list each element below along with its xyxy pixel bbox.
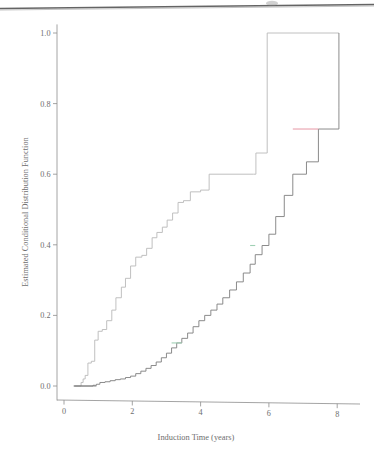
y-axis-tick-label: 0.2 [40,311,50,320]
scan-edge-artifact [0,1,374,10]
series-upper-curve [74,33,339,386]
x-axis-tick-label: 4 [199,408,203,417]
x-axis-tick-label: 6 [267,409,271,418]
chart-canvas: 0.00.20.40.60.81.002468Induction Time (y… [0,0,374,456]
chart-labels-layer: 0.00.20.40.60.81.002468Induction Time (y… [21,29,339,442]
x-axis-line [57,400,360,404]
x-axis-tick-label: 2 [130,407,134,416]
chart-series-layer [74,33,339,386]
y-axis-tick-label: 0.6 [40,170,50,179]
x-axis-title: Induction Time (years) [158,433,235,442]
chart-highlight-layer [172,129,319,343]
x-axis-tick-label: 0 [62,407,66,416]
y-axis-tick-label: 0.8 [40,100,50,109]
y-axis-tick-label: 0.4 [40,241,50,250]
chart-figure: 0.00.20.40.60.81.002468Induction Time (y… [0,0,374,456]
series-lower-curve [74,107,339,386]
y-axis-title: Estimated Conditional Distribution Funct… [21,136,30,286]
x-axis-tick-label: 8 [335,410,339,419]
y-axis-tick-label: 0.0 [40,382,50,391]
y-axis-tick-label: 1.0 [40,29,50,38]
chart-axes [53,24,360,408]
